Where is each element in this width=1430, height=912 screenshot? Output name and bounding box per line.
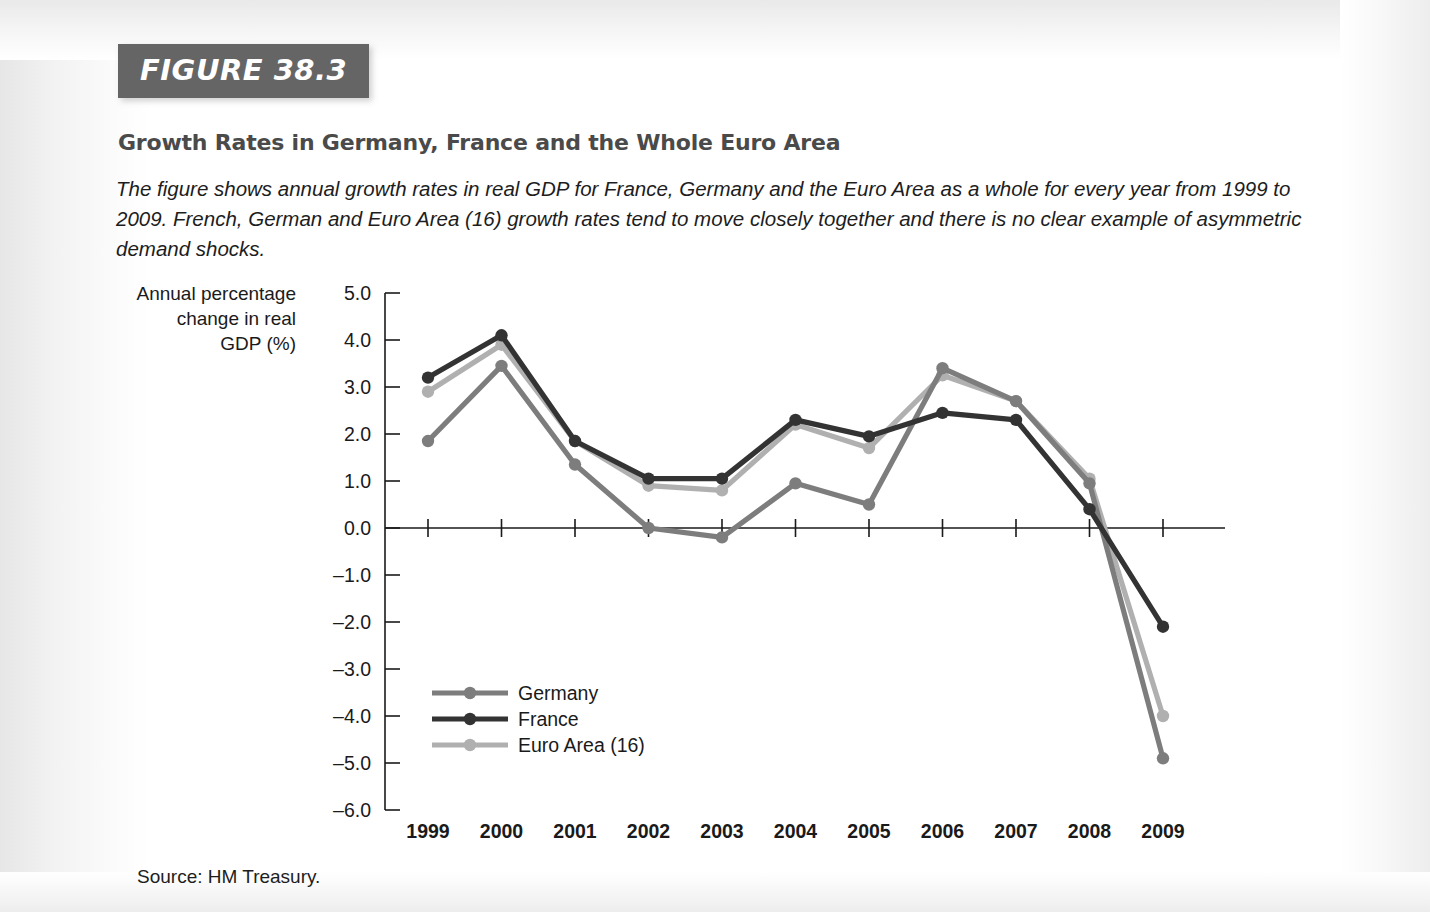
x-tick-label: 2003 [700,820,744,842]
y-tick-label: –6.0 [333,799,371,821]
x-tick-label: 2002 [627,820,671,842]
data-point [863,498,875,510]
y-tick-label: 5.0 [344,282,371,304]
data-point [936,407,948,419]
figure-page: FIGURE 38.3 Growth Rates in Germany, Fra… [0,0,1430,912]
y-tick-label: 3.0 [344,376,371,398]
y-tick-label: –4.0 [333,705,371,727]
y-tick-label: 4.0 [344,329,371,351]
data-point [716,484,728,496]
chart-legend: GermanyFranceEuro Area (16) [432,682,645,756]
figure-number-banner: FIGURE 38.3 [118,44,369,98]
data-point [642,522,654,534]
legend-label: France [518,708,579,730]
y-tick-label: –2.0 [333,611,371,633]
legend-swatch-marker [464,739,476,751]
x-tick-label: 2000 [480,820,524,842]
data-point [1010,414,1022,426]
data-point [422,435,434,447]
data-point [863,430,875,442]
y-axis-title-line: GDP (%) [220,333,296,354]
figure-description: The figure shows annual growth rates in … [116,174,1334,264]
data-point [569,458,581,470]
figure-number-label: FIGURE 38.3 [140,53,347,87]
y-axis-title-line: Annual percentage [136,283,296,304]
x-tick-label: 2004 [774,820,818,842]
legend-label: Germany [518,682,598,704]
data-point [1157,710,1169,722]
figure-source: Source: HM Treasury. [137,866,320,888]
y-tick-label: –3.0 [333,658,371,680]
data-point [789,477,801,489]
data-point [789,414,801,426]
x-tick-label: 1999 [406,820,450,842]
data-point [1083,477,1095,489]
x-tick-label: 2008 [1068,820,1112,842]
x-tick-label: 2009 [1141,820,1185,842]
y-tick-label: 1.0 [344,470,371,492]
y-axis-title: Annual percentagechange in realGDP (%) [136,283,296,354]
y-axis: 5.04.03.02.01.00.0–1.0–2.0–3.0–4.0–5.0–6… [333,282,400,821]
data-point [495,360,507,372]
data-point [716,531,728,543]
data-point [422,371,434,383]
legend-label: Euro Area (16) [518,734,645,756]
data-point [642,472,654,484]
y-tick-label: 0.0 [344,517,371,539]
data-point [716,472,728,484]
data-point [1083,503,1095,515]
x-tick-label: 2007 [994,820,1037,842]
data-point [1157,621,1169,633]
data-point [495,329,507,341]
figure-title: Growth Rates in Germany, France and the … [118,130,840,155]
y-tick-label: 2.0 [344,423,371,445]
data-point [936,362,948,374]
legend-swatch-marker [464,687,476,699]
legend-swatch-marker [464,713,476,725]
y-tick-label: –5.0 [333,752,371,774]
x-tick-label: 2001 [553,820,597,842]
data-point [1157,752,1169,764]
data-point [863,442,875,454]
data-point [1010,395,1022,407]
x-axis: 1999200020012002200320042005200620072008… [385,519,1225,842]
y-axis-title-line: change in real [177,308,296,329]
legend-item: France [432,708,579,730]
data-point [422,386,434,398]
data-point [569,435,581,447]
y-tick-label: –1.0 [333,564,371,586]
legend-item: Euro Area (16) [432,734,645,756]
line-chart: Annual percentagechange in realGDP (%) 5… [0,275,1430,855]
x-tick-label: 2006 [921,820,965,842]
legend-item: Germany [432,682,598,704]
chart-svg: Annual percentagechange in realGDP (%) 5… [0,275,1430,855]
x-tick-label: 2005 [847,820,891,842]
